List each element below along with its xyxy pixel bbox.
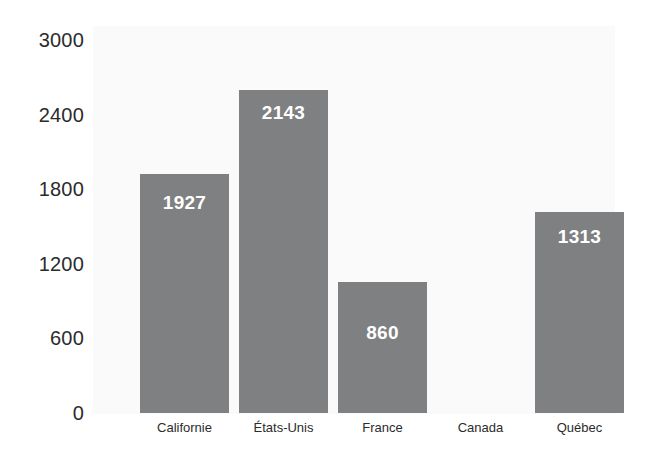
bar-californie: 1927 [140, 174, 229, 413]
x-axis: Californie États-Unis France Canada Québ… [0, 420, 655, 450]
x-axis-tick-label-californie: Californie [140, 420, 229, 436]
x-axis-tick-label-france: France [338, 420, 427, 436]
bars-layer: 1927 2143 860 1243 1313 [0, 0, 655, 468]
bar-france: 860 [338, 282, 427, 413]
bar-etats-unis: 2143 [239, 90, 328, 413]
bar-value-label: 860 [338, 323, 427, 342]
bar-value-label: 1313 [535, 227, 624, 246]
bar-chart: 3000 2400 1800 1200 600 0 1927 2143 860 … [0, 0, 655, 468]
bar-value-label: 1927 [140, 193, 229, 212]
x-axis-tick-label-canada: Canada [436, 420, 525, 436]
bar-value-label: 2143 [239, 103, 328, 122]
bar-quebec: 1313 [535, 212, 624, 413]
x-axis-tick-label-etats-unis: États-Unis [239, 420, 328, 436]
x-axis-tick-label-quebec: Québec [535, 420, 624, 436]
